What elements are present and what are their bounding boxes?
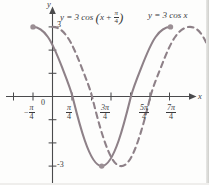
tick-numerator: 3π — [100, 104, 110, 112]
endpoint-dot-left — [30, 24, 35, 29]
endpoint-dot-right — [168, 24, 173, 29]
tick-numerator: 7π — [166, 104, 176, 112]
tick-fraction: 3π 4 — [100, 104, 110, 121]
equation-lead: y = 3 cos — [60, 12, 93, 22]
x-tick-label-neg-pi-over-4: − π 4 — [24, 104, 35, 121]
y-axis-label: y — [47, 0, 51, 9]
tick-denominator: 4 — [166, 112, 176, 121]
x-tick-label-pi-over-4: π 4 — [66, 104, 72, 121]
page-right-edge — [206, 0, 209, 185]
equation-plus: + — [106, 12, 111, 22]
tick-denominator: 4 — [29, 112, 35, 121]
tick-denominator: 4 — [66, 112, 72, 121]
equation-variable: x — [100, 12, 104, 22]
tick-numerator: π — [66, 104, 72, 112]
x-axis-arrow — [189, 93, 197, 100]
tick-fraction: 5π 4 — [139, 104, 149, 121]
origin-label: 0 — [41, 99, 45, 107]
minimum-dot-solid — [99, 163, 104, 168]
x-tick-label-5pi-over-4: 5π 4 — [139, 104, 149, 121]
tick-numerator: π — [29, 104, 35, 112]
x-tick-label-7pi-over-4: 7π 4 — [166, 104, 176, 121]
page-bottom-edge — [0, 183, 209, 185]
tick-fraction: π 4 — [29, 104, 35, 121]
tick-fraction: π 4 — [66, 104, 72, 121]
graph-canvas — [0, 0, 209, 185]
y-value-bottom-label: -3 — [57, 161, 64, 169]
tick-denominator: 4 — [139, 112, 149, 121]
tick-numerator: 5π — [139, 104, 149, 112]
axes-group — [6, 7, 197, 185]
equation-label-shifted-cosine: y = 3 cos (x + π 4 ) — [60, 10, 123, 25]
trig-graph-figure: y x 0 3 -3 y = 3 cos (x + π 4 ) y = 3 co… — [0, 0, 209, 185]
x-axis-label: x — [198, 92, 202, 101]
x-tick-label-3pi-over-4: 3π 4 — [100, 104, 110, 121]
equation-label-plain-cosine: y = 3 cos x — [148, 11, 188, 20]
paren-close: ) — [119, 10, 123, 25]
tick-fraction: 7π 4 — [166, 104, 176, 121]
tick-denominator: 4 — [100, 112, 110, 121]
